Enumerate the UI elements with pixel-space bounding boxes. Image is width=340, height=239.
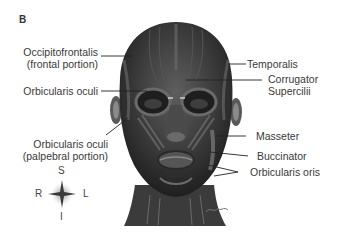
orientation-compass-icon: [48, 180, 76, 208]
label-corrugator-supercilii: Corrugator Supercilii: [268, 73, 318, 97]
label-line: Orbicularis oculi: [10, 85, 98, 97]
label-line: Orbicularis oculi: [10, 138, 108, 150]
label-line: Orbicularis oris: [250, 166, 320, 178]
label-line: (palpebral portion): [10, 150, 108, 162]
label-buccinator: Buccinator: [257, 150, 307, 162]
label-temporalis: Temporalis: [247, 58, 298, 70]
label-line: Corrugator: [268, 73, 318, 85]
label-orbicularis-oris: Orbicularis oris: [250, 166, 320, 178]
label-line: (frontal portion): [18, 58, 98, 70]
compass-inferior: I: [60, 211, 63, 222]
label-masseter: Masseter: [256, 130, 299, 142]
label-line: Masseter: [256, 130, 299, 142]
compass-left: L: [83, 188, 89, 199]
compass-right: R: [35, 188, 42, 199]
facial-muscles-illustration: [0, 0, 340, 239]
label-orbicularis-oculi-palpebral: Orbicularis oculi (palpebral portion): [10, 138, 108, 162]
label-line: Occipitofrontalis: [18, 46, 98, 58]
label-occipitofrontalis: Occipitofrontalis (frontal portion): [18, 46, 98, 70]
label-line: Supercilii: [268, 85, 318, 97]
label-line: Temporalis: [247, 58, 298, 70]
label-line: Buccinator: [257, 150, 307, 162]
compass-superior: S: [58, 165, 65, 176]
head: [120, 22, 233, 212]
label-orbicularis-oculi: Orbicularis oculi: [10, 85, 98, 97]
